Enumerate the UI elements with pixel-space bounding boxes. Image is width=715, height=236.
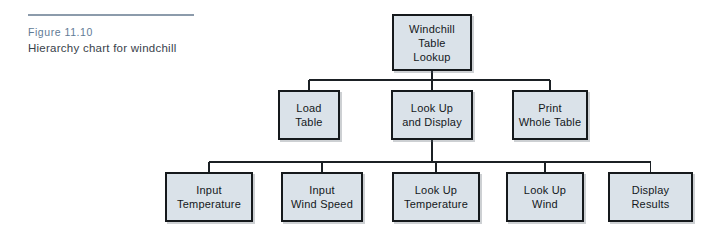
node-box-inputwind: Input Wind Speed [281, 172, 363, 222]
node-box-load: Load Table [278, 90, 340, 140]
node-box-inputtemp: Input Temperature [165, 172, 253, 222]
node-label-lookupwind: Look Up Wind [521, 183, 569, 211]
node-label-lookdisp: Look Up and Display [399, 101, 465, 129]
node-label-inputwind: Input Wind Speed [288, 183, 356, 211]
node-label-inputtemp: Input Temperature [174, 183, 244, 211]
node-label-printwhole: Print Whole Table [516, 101, 585, 129]
node-box-displayres: Display Results [608, 172, 693, 222]
node-box-root: Windchill Table Lookup [392, 14, 472, 71]
node-label-lookuptemp: Look Up Temperature [401, 183, 471, 211]
node-label-load: Load Table [292, 101, 325, 129]
node-box-lookupwind: Look Up Wind [506, 172, 584, 222]
figure-hierarchy-chart: Figure 11.10 Hierarchy chart for windchi… [0, 0, 715, 236]
node-box-lookdisp: Look Up and Display [391, 90, 473, 140]
hierarchy-chart-canvas: Windchill Table LookupLoad TableLook Up … [0, 0, 715, 236]
node-box-printwhole: Print Whole Table [512, 90, 588, 140]
node-label-displayres: Display Results [628, 183, 672, 211]
node-label-root: Windchill Table Lookup [406, 22, 458, 64]
node-box-lookuptemp: Look Up Temperature [392, 172, 480, 222]
